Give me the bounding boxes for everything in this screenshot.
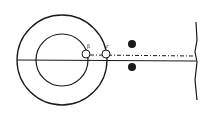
- label-right-point: r: [106, 44, 108, 49]
- small-circle-left: [82, 50, 90, 58]
- dot-lower: [128, 63, 136, 71]
- diagram-canvas: [0, 0, 209, 114]
- small-circle-right: [102, 50, 110, 58]
- horizontal-axis: [17, 60, 196, 61]
- label-left-point: β: [87, 44, 90, 49]
- dot-upper: [128, 40, 136, 48]
